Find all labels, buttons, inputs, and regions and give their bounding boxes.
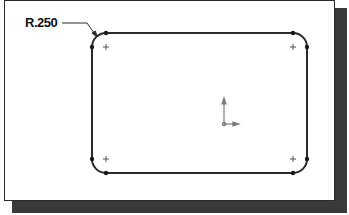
endpoint-dot[interactable] (305, 157, 309, 161)
endpoint-dot[interactable] (90, 157, 94, 161)
bottom-right-fillet-arc[interactable] (293, 159, 307, 173)
bottom-left-fillet-arc[interactable] (92, 159, 106, 173)
endpoint-dot[interactable] (291, 31, 295, 35)
plus-icon[interactable] (290, 156, 296, 162)
rounded-rectangle[interactable] (92, 33, 307, 173)
radius-dimension-leader[interactable] (62, 23, 97, 37)
top-right-fillet-arc[interactable] (293, 33, 307, 47)
endpoint-dot[interactable] (90, 45, 94, 49)
endpoint-dot[interactable] (104, 171, 108, 175)
radius-dimension-label[interactable]: R.250 (25, 15, 57, 30)
plus-icon[interactable] (103, 44, 109, 50)
sketch-endpoints (90, 31, 309, 175)
arc-centerpoints (103, 44, 296, 162)
plus-icon[interactable] (103, 156, 109, 162)
plus-icon[interactable] (290, 44, 296, 50)
endpoint-dot[interactable] (305, 45, 309, 49)
origin-axes-icon[interactable] (222, 98, 239, 126)
sketch-canvas[interactable] (0, 0, 349, 215)
endpoint-dot[interactable] (104, 31, 108, 35)
endpoint-dot[interactable] (291, 171, 295, 175)
